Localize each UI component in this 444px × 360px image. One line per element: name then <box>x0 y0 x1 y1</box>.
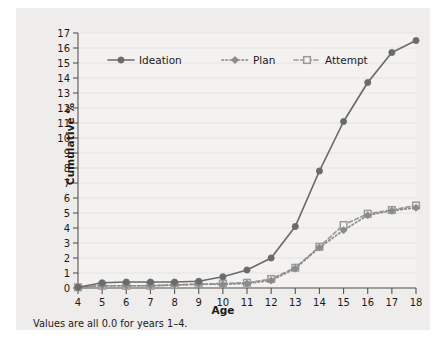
data-point-ideation <box>340 118 346 124</box>
y-axis-tick-label: 1 <box>64 268 70 279</box>
plot-area: 0123456789101112131415161745678910111213… <box>16 8 430 308</box>
data-point-ideation <box>196 278 202 284</box>
data-point-ideation <box>292 223 298 229</box>
y-axis-tick-label: 3 <box>64 238 70 249</box>
y-axis-tick-label: 17 <box>57 28 70 39</box>
data-point-ideation <box>171 279 177 285</box>
data-point-ideation <box>75 284 81 290</box>
legend-label-ideation: Ideation <box>139 54 182 66</box>
y-axis-tick-label: 14 <box>57 73 70 84</box>
data-point-ideation <box>389 49 395 55</box>
legend-sample-marker-ideation <box>118 57 124 63</box>
y-axis-tick-label: 2 <box>64 253 70 264</box>
data-point-ideation <box>365 79 371 85</box>
legend-label-attempt: Attempt <box>325 54 368 66</box>
line-chart: 0123456789101112131415161745678910111213… <box>16 8 430 308</box>
figure-footnote: Values are all 0.0 for years 1–4. <box>33 318 187 329</box>
data-point-ideation <box>220 274 226 280</box>
legend-sample-marker-attempt <box>304 57 311 64</box>
y-axis-tick-label: 0 <box>64 283 70 294</box>
x-axis-label: Age <box>16 304 430 316</box>
data-point-ideation <box>99 280 105 286</box>
data-point-ideation <box>147 279 153 285</box>
data-point-ideation <box>244 267 250 273</box>
y-axis-tick-label: 15 <box>57 58 70 69</box>
y-axis-tick-label: 4 <box>64 223 70 234</box>
figure-panel: 0123456789101112131415161745678910111213… <box>16 8 430 330</box>
data-point-ideation <box>268 255 274 261</box>
y-axis-tick-label: 16 <box>57 43 70 54</box>
data-point-ideation <box>123 279 129 285</box>
y-axis-label: Cumulative % <box>64 84 76 204</box>
data-point-ideation <box>413 37 419 43</box>
y-axis-tick-label: 5 <box>64 208 70 219</box>
plot-background <box>78 33 416 288</box>
figure-root: 0123456789101112131415161745678910111213… <box>0 0 444 360</box>
legend-label-plan: Plan <box>253 54 275 66</box>
data-point-ideation <box>316 168 322 174</box>
